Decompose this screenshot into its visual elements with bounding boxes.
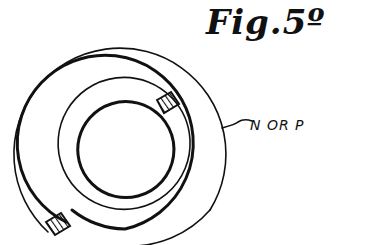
outer-edge-bottom	[125, 210, 210, 245]
outer-turn-inner-edge	[17, 55, 193, 229]
inner-end-cross-section	[157, 92, 179, 113]
inner-turn-inner-edge	[78, 102, 174, 198]
material-label: N OR P	[250, 117, 305, 133]
spiral-strip-drawing	[0, 0, 371, 245]
label-leader-line	[222, 120, 252, 128]
outer-end-cross-section	[46, 213, 70, 235]
